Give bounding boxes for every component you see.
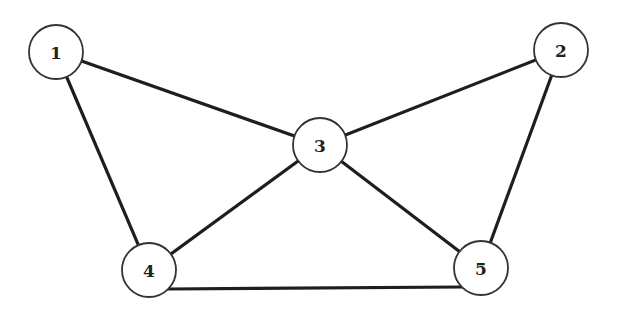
edge-2-3 bbox=[320, 50, 561, 145]
node-2-label: 2 bbox=[555, 41, 567, 61]
node-5-label: 5 bbox=[475, 259, 487, 279]
node-1-label: 1 bbox=[50, 43, 62, 63]
node-3-label: 3 bbox=[314, 136, 326, 156]
edge-1-3 bbox=[56, 52, 320, 145]
node-2: 2 bbox=[534, 23, 588, 77]
edge-4-5 bbox=[168, 287, 462, 289]
edge-1-4 bbox=[56, 52, 149, 270]
edge-3-5 bbox=[320, 145, 481, 268]
node-3: 3 bbox=[293, 118, 347, 172]
node-4-label: 4 bbox=[143, 261, 155, 281]
node-5: 5 bbox=[454, 241, 508, 295]
node-1: 1 bbox=[29, 25, 83, 79]
edge-2-5 bbox=[481, 50, 561, 268]
node-4: 4 bbox=[122, 243, 176, 297]
nodes: 1 2 3 4 5 bbox=[29, 23, 588, 297]
edge-3-4 bbox=[149, 145, 320, 270]
graph-diagram: 1 2 3 4 5 bbox=[0, 0, 617, 312]
